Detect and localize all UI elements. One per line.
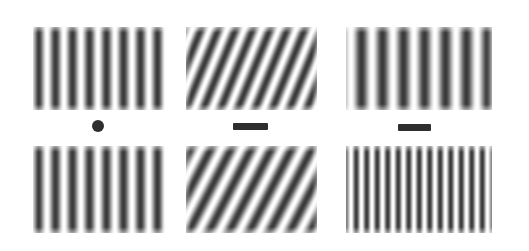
grating-surface [33, 146, 167, 233]
grating-panel-bottom-left [33, 146, 167, 233]
marker-dot-left [92, 120, 104, 132]
marker-dash-middle [233, 123, 268, 130]
grating-panel-top-right [346, 27, 492, 110]
grating-surface [186, 146, 317, 233]
grating-surface [346, 146, 492, 233]
grating-stimulus-figure [0, 0, 529, 251]
grating-surface [346, 27, 492, 110]
marker-dash-right [398, 124, 431, 131]
grating-panel-top-left [33, 27, 167, 110]
grating-panel-bottom-middle [186, 146, 317, 233]
grating-surface [33, 27, 167, 110]
grating-panel-bottom-right [346, 146, 492, 233]
grating-surface [186, 27, 317, 110]
grating-panel-top-middle [186, 27, 317, 110]
